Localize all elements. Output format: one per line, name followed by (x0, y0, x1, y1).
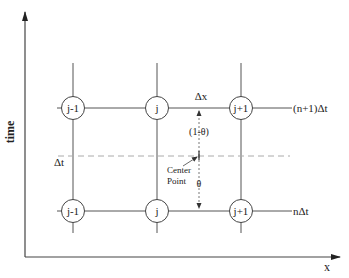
node-label: j (154, 102, 158, 114)
node-label: j-1 (66, 205, 79, 217)
node-lower-j+1: j+1 (230, 200, 253, 223)
center-point-label-line2: Point (167, 176, 187, 186)
x-axis-label: x (324, 260, 330, 274)
delta-x-label: Δx (195, 90, 208, 102)
delta-t-label: Δt (54, 156, 64, 168)
node-lower-j-1: j-1 (62, 200, 85, 223)
row-label-lower: nΔt (293, 205, 309, 217)
node-label: j+1 (233, 102, 249, 114)
y-axis-label: time (3, 120, 17, 143)
center-point-label-line1: Center (167, 165, 191, 175)
node-upper-j-1: j-1 (62, 97, 85, 120)
one-minus-theta-label: (1-θ) (189, 126, 209, 138)
node-lower-j: j (146, 200, 169, 223)
row-label-upper: (n+1)Δt (293, 102, 328, 115)
node-label: j-1 (66, 102, 79, 114)
node-label: j+1 (233, 205, 249, 217)
fd-grid-diagram: time x j-1 j j+1 j-1 j j+1 (n+1)Δt nΔt Δ… (0, 0, 349, 278)
theta-label: θ (197, 178, 202, 189)
node-upper-j+1: j+1 (230, 97, 253, 120)
node-label: j (154, 205, 158, 217)
node-upper-j: j (146, 97, 169, 120)
